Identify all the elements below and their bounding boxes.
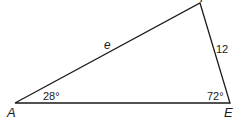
side-label-af: e — [104, 39, 111, 51]
angle-label-a: 28° — [43, 91, 60, 102]
triangle-shape — [0, 0, 236, 125]
side-label-fe: 12 — [216, 44, 228, 55]
vertex-label-f: F — [200, 0, 208, 4]
triangle-outline — [15, 3, 230, 103]
angle-label-e: 72° — [207, 91, 224, 102]
vertex-label-a: A — [7, 106, 16, 119]
triangle-diagram: A E F 28° 72° e 12 — [0, 0, 236, 125]
vertex-label-e: E — [224, 106, 233, 119]
